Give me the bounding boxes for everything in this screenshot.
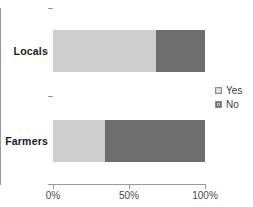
- bar-segment-farmers-yes: [53, 120, 105, 162]
- legend-swatch-yes: [215, 87, 222, 94]
- legend-label-no: No: [226, 100, 239, 110]
- bar-segment-farmers-no: [105, 120, 205, 162]
- x-axis-tick-100: [205, 184, 206, 189]
- legend-label-yes: Yes: [226, 86, 242, 96]
- x-axis-label-50: 50%: [119, 191, 139, 201]
- legend-swatch-no: [215, 101, 222, 108]
- x-axis-tick-50: [129, 184, 130, 189]
- bar-segment-locals-no: [156, 30, 205, 72]
- x-axis-label-100: 100%: [192, 191, 218, 201]
- category-label-locals: Locals: [14, 46, 48, 57]
- category-label-farmers: Farmers: [5, 136, 48, 147]
- bar-segment-locals-yes: [53, 30, 156, 72]
- y-axis-tick-top: [48, 8, 53, 9]
- legend-item-yes[interactable]: Yes: [215, 84, 242, 97]
- legend: Yes No: [215, 84, 242, 112]
- y-axis-line: [0, 8, 1, 185]
- legend-item-no[interactable]: No: [215, 98, 242, 111]
- x-axis-label-0: 0%: [46, 191, 60, 201]
- bar-locals: [53, 30, 205, 72]
- y-axis-tick-middle: [48, 96, 53, 97]
- stacked-bar-chart: Locals Farmers 0% 50% 100% Yes No: [0, 0, 253, 207]
- x-axis-tick-0: [53, 184, 54, 189]
- bar-farmers: [53, 120, 205, 162]
